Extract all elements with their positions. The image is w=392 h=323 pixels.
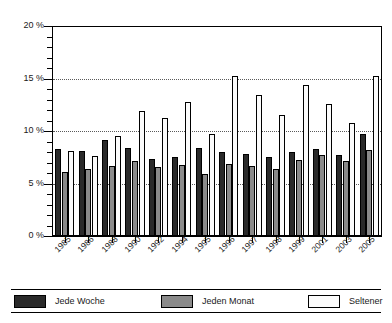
x-tick-label: 2003 xyxy=(334,235,354,255)
bars-layer xyxy=(53,26,382,236)
x-tick-label: 1997 xyxy=(240,235,260,255)
y-tick-major xyxy=(44,26,52,27)
bar xyxy=(336,155,342,236)
bar xyxy=(185,102,191,236)
y-tick-label: 0 % xyxy=(28,231,44,240)
bar xyxy=(149,159,155,236)
y-tick-minor xyxy=(47,47,52,48)
bar xyxy=(115,136,121,236)
bar xyxy=(109,166,115,236)
x-tick-label: 1998 xyxy=(264,235,284,255)
bar xyxy=(162,118,168,236)
x-tick-label: 1985 xyxy=(53,235,73,255)
y-tick-minor xyxy=(47,37,52,38)
y-tick-label: 20 % xyxy=(23,21,44,30)
bar xyxy=(92,156,98,236)
bar xyxy=(256,95,262,236)
x-tick-label: 1995 xyxy=(193,235,213,255)
bar xyxy=(319,155,325,236)
bar xyxy=(172,157,178,236)
bar xyxy=(125,148,131,236)
y-tick-minor xyxy=(47,68,52,69)
x-axis-line xyxy=(52,236,382,237)
bar xyxy=(102,140,108,236)
bar xyxy=(232,76,238,236)
bar xyxy=(62,172,68,236)
bar xyxy=(326,104,332,236)
x-tick-label: 1994 xyxy=(170,235,190,255)
bar xyxy=(179,165,185,236)
bar xyxy=(349,123,355,236)
y-tick-major xyxy=(44,131,52,132)
bar-chart: 0 %5 %10 %15 %20 % 198519861988199019921… xyxy=(0,0,392,323)
bar xyxy=(296,160,302,236)
bar xyxy=(343,161,349,236)
bar xyxy=(139,111,145,236)
bar xyxy=(279,115,285,236)
bar xyxy=(85,169,91,236)
bar xyxy=(373,76,379,236)
y-tick-major xyxy=(44,184,52,185)
legend-swatch-jeden-monat xyxy=(161,295,193,308)
y-tick-major xyxy=(44,79,52,80)
x-tick-label: 2001 xyxy=(310,235,330,255)
bar xyxy=(313,149,319,236)
x-tick-label: 1996 xyxy=(217,235,237,255)
legend-swatch-jede-woche xyxy=(14,295,46,308)
legend-label-jeden-monat: Jeden Monat xyxy=(202,296,254,306)
y-tick-minor xyxy=(47,205,52,206)
y-tick-label: 10 % xyxy=(23,126,44,135)
bar xyxy=(273,169,279,236)
legend-swatch-seltener xyxy=(308,295,340,308)
bar xyxy=(219,152,225,236)
y-tick-minor xyxy=(47,173,52,174)
chart-legend: Jede Woche Jeden Monat Seltener xyxy=(11,289,381,313)
y-tick-label: 15 % xyxy=(23,74,44,83)
bar xyxy=(303,85,309,236)
legend-label-jede-woche: Jede Woche xyxy=(55,296,105,306)
y-tick-minor xyxy=(47,100,52,101)
bar xyxy=(155,167,161,236)
bar xyxy=(243,154,249,236)
x-tick-label: 1990 xyxy=(123,235,143,255)
y-tick-minor xyxy=(47,163,52,164)
bar xyxy=(266,157,272,236)
x-tick-label: 1999 xyxy=(287,235,307,255)
y-tick-minor xyxy=(47,215,52,216)
y-tick-minor xyxy=(47,152,52,153)
x-tick-label: 2005 xyxy=(357,235,377,255)
bar xyxy=(209,134,215,236)
bar xyxy=(226,164,232,236)
bar xyxy=(289,152,295,236)
legend-label-seltener: Seltener xyxy=(349,296,383,306)
y-tick-minor xyxy=(47,194,52,195)
bar xyxy=(132,161,138,236)
y-tick-minor xyxy=(47,110,52,111)
bar xyxy=(360,134,366,236)
bar xyxy=(366,150,372,236)
y-tick-minor xyxy=(47,142,52,143)
bar xyxy=(55,149,61,236)
legend-entry-jede-woche: Jede Woche xyxy=(14,294,105,308)
x-tick-label: 1986 xyxy=(76,235,96,255)
y-tick-major xyxy=(44,236,52,237)
x-tick-label: 1992 xyxy=(146,235,166,255)
bar xyxy=(68,151,74,236)
y-tick-minor xyxy=(47,58,52,59)
legend-entry-seltener: Seltener xyxy=(308,294,383,308)
y-tick-minor xyxy=(47,121,52,122)
x-tick-label: 1988 xyxy=(100,235,120,255)
y-tick-minor xyxy=(47,226,52,227)
y-tick-minor xyxy=(47,89,52,90)
bar xyxy=(249,166,255,236)
legend-entry-jeden-monat: Jeden Monat xyxy=(161,294,254,308)
bar xyxy=(196,148,202,236)
y-tick-label: 5 % xyxy=(28,179,44,188)
bar xyxy=(79,151,85,236)
bar xyxy=(202,174,208,236)
